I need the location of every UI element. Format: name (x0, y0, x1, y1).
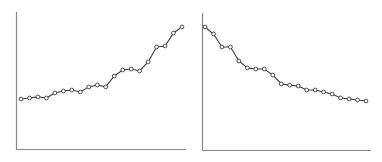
data-point-marker (180, 25, 184, 29)
data-point-marker (203, 25, 207, 29)
data-point-marker (229, 45, 233, 49)
data-point-marker (70, 88, 74, 92)
data-point-marker (347, 97, 351, 101)
data-point-marker (62, 89, 66, 93)
data-point-marker (271, 73, 275, 77)
data-point-marker (288, 83, 292, 87)
data-point-marker (330, 92, 334, 96)
right-line-chart (202, 13, 371, 151)
data-point-marker (121, 68, 125, 72)
left-series-line (21, 27, 182, 99)
data-point-marker (279, 82, 283, 86)
data-point-marker (36, 95, 40, 99)
data-point-marker (163, 44, 167, 48)
data-point-marker (356, 98, 360, 102)
data-point-marker (78, 90, 82, 94)
data-point-marker (146, 60, 150, 64)
data-point-marker (339, 96, 343, 100)
data-point-marker (313, 88, 317, 92)
data-point-marker (364, 99, 368, 103)
data-point-marker (19, 97, 23, 101)
data-point-marker (305, 88, 309, 92)
data-point-marker (45, 96, 49, 100)
data-point-marker (212, 32, 216, 36)
data-point-marker (254, 67, 258, 71)
data-point-marker (246, 66, 250, 70)
data-point-marker (296, 84, 300, 88)
data-point-marker (95, 83, 99, 87)
right-series-markers (203, 25, 368, 103)
left-line-chart (16, 12, 186, 150)
data-point-marker (220, 45, 224, 49)
data-point-marker (262, 67, 266, 71)
data-point-marker (155, 45, 159, 49)
data-point-marker (53, 91, 57, 95)
data-point-marker (104, 85, 108, 89)
left-series-markers (19, 25, 184, 101)
data-point-marker (129, 67, 133, 71)
data-point-marker (322, 90, 326, 94)
data-point-marker (237, 59, 241, 63)
data-point-marker (87, 85, 91, 89)
data-point-marker (112, 74, 116, 78)
data-point-marker (138, 69, 142, 73)
data-point-marker (28, 96, 32, 100)
data-point-marker (172, 31, 176, 35)
right-series-line (205, 27, 366, 101)
chart-canvas (0, 0, 382, 162)
